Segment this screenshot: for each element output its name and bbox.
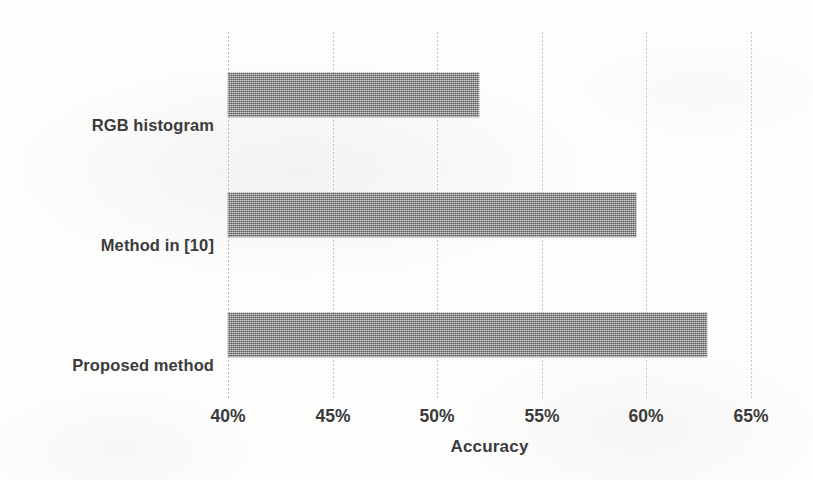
tick-label-45: 45% [315, 406, 350, 427]
category-label-proposed-method: Proposed method [4, 356, 214, 375]
bar-rgb-histogram [228, 73, 479, 117]
tick-label-55: 55% [524, 406, 559, 427]
category-axis-labels: RGB histogram Method in [10] Proposed me… [0, 32, 214, 400]
category-label-rgb-histogram: RGB histogram [4, 116, 214, 135]
category-label-method-in-10: Method in [10] [4, 236, 214, 255]
tick-label-50: 50% [419, 406, 454, 427]
plot-area [228, 32, 751, 400]
tick-label-65: 65% [733, 406, 768, 427]
x-axis-title: Accuracy [0, 437, 813, 457]
tick-label-60: 60% [628, 406, 663, 427]
bar-proposed-method [228, 313, 707, 357]
gridline-65 [751, 32, 752, 400]
bar-method-in-10 [228, 193, 636, 237]
accuracy-bar-chart: RGB histogram Method in [10] Proposed me… [0, 0, 813, 480]
tick-label-40: 40% [210, 406, 245, 427]
x-axis-title-text: Accuracy [450, 437, 528, 456]
value-axis-tick-labels: 40% 45% 50% 55% 60% 65% [228, 406, 751, 436]
